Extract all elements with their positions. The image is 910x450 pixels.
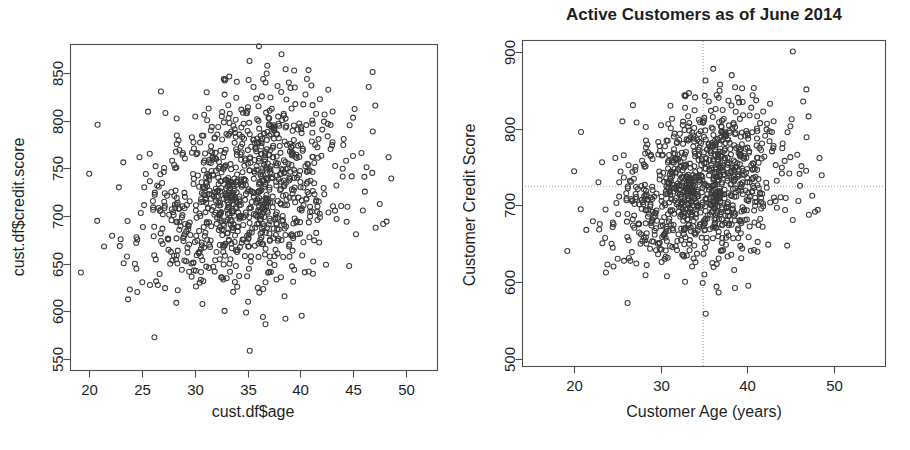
data-point [243,197,248,202]
data-point [747,113,752,118]
data-point [386,155,391,160]
data-point [726,98,731,103]
data-point [254,96,259,101]
data-point [716,256,721,261]
data-point [702,272,707,277]
data-point [377,202,382,207]
data-point [804,87,809,92]
data-point [735,95,740,100]
data-point [810,193,815,198]
data-point [193,114,198,119]
data-point [779,171,784,176]
data-point [771,119,776,124]
data-point [621,153,626,158]
data-point [325,134,330,139]
data-point [806,212,811,217]
data-point [303,92,308,97]
data-point [341,137,346,142]
data-point [718,82,723,87]
y-tick-label: 900 [501,40,518,65]
left-x-tickmarks [90,371,407,378]
data-point [284,97,289,102]
data-point [349,174,354,179]
data-point [260,315,265,320]
data-point [706,99,711,104]
data-point [789,117,794,122]
data-point [615,256,620,261]
data-point [729,73,734,78]
data-point [359,151,364,156]
x-tick-label: 30 [653,377,670,394]
data-point [621,258,626,263]
data-point [292,68,297,73]
data-point [703,311,708,316]
data-point [701,251,706,256]
data-point [228,162,233,167]
data-point [733,85,738,90]
data-point [287,254,292,259]
data-point [682,242,687,247]
data-point [713,107,718,112]
left-data-points [78,44,393,353]
data-point [293,200,298,205]
data-point [312,238,317,243]
data-point [774,205,779,210]
data-point [185,250,190,255]
data-point [600,241,605,246]
data-point [617,180,622,185]
y-tick-label: 700 [501,193,518,218]
data-point [681,119,686,124]
data-point [720,107,725,112]
data-point [263,280,268,285]
data-point [135,289,140,294]
data-point [229,167,234,172]
data-point [310,103,315,108]
data-point [714,284,719,289]
data-point [281,254,286,259]
data-point [117,244,122,249]
data-point [296,195,301,200]
data-point [785,130,790,135]
data-point [370,170,375,175]
data-point [257,126,262,131]
x-tick-label: 50 [826,377,843,394]
data-point [147,151,152,156]
data-point [330,109,335,114]
data-point [289,106,294,111]
data-point [767,139,772,144]
data-point [205,237,210,242]
data-point [174,236,179,241]
data-point [187,269,192,274]
data-point [193,203,198,208]
data-point [233,165,238,170]
data-point [268,95,273,100]
x-tick-label: 20 [566,377,583,394]
x-tick-label: 30 [187,381,204,398]
data-point [788,124,793,129]
data-point [150,198,155,203]
data-point [731,236,736,241]
data-point [804,135,809,140]
data-point [347,264,352,269]
data-point [200,302,205,307]
data-point [686,114,691,119]
data-point [242,254,247,259]
data-point [311,259,316,264]
y-tick-label: 500 [501,347,518,372]
data-point [142,203,147,208]
data-point [668,103,673,108]
data-point [389,176,394,181]
data-point [279,52,284,57]
data-point [255,285,260,290]
data-point [344,219,349,224]
data-point [694,251,699,256]
data-point [340,174,345,179]
data-point [782,158,787,163]
data-point [95,122,100,127]
data-point [191,181,196,186]
data-point [272,263,277,268]
data-point [306,220,311,225]
data-point [140,280,145,285]
data-point [620,119,625,124]
data-point [729,103,734,108]
